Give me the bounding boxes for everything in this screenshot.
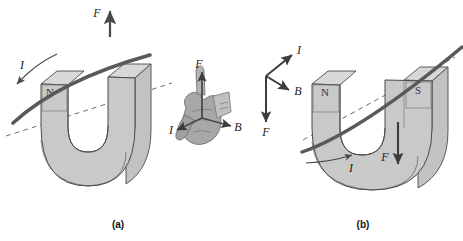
triad-label-f: F: [261, 125, 270, 139]
triad-label-b: B: [294, 84, 302, 98]
figure-canvas: N I F (a) F I B: [0, 0, 463, 241]
hand-vector-label-b: B: [234, 120, 242, 134]
panel-b-caption: (b): [357, 219, 370, 230]
physics-figure: N I F (a) F I B: [0, 0, 463, 241]
vector-label-f-a: F: [92, 6, 101, 20]
pole-label-n-b: N: [321, 86, 329, 98]
pole-label-s-b: S: [415, 84, 421, 96]
panel-b-label-f: F: [380, 150, 389, 164]
panel-a-caption: (a): [112, 219, 124, 230]
hand-vector-label-f: F: [194, 57, 203, 71]
